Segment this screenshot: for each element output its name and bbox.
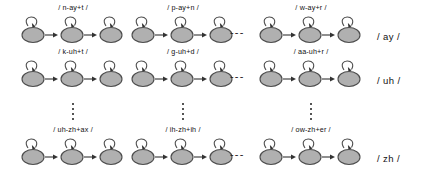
hmm-model-r3c2: / ih-zh+ih / — [124, 125, 242, 171]
row-ellipsis-col2 — [182, 103, 185, 123]
hmm-model-r2c2: / g-uh+d / — [124, 47, 242, 93]
column-ellipsis-row3: --- — [230, 149, 245, 159]
phoneme-label-ay: / ay / — [377, 31, 400, 42]
hmm-model-r1c2: / p-ay+n / — [124, 3, 242, 49]
column-ellipsis-row2: --- — [230, 71, 245, 81]
triphone-label-r2c1: / k-uh+t / — [14, 47, 132, 56]
triphone-label-r1c1: / n-ay+t / — [14, 3, 132, 12]
hmm-state-chain-r2c1 — [14, 56, 132, 93]
triphone-label-r1c3: / w-ay+r / — [252, 3, 370, 12]
hmm-model-r2c1: / k-uh+t / — [14, 47, 132, 93]
hmm-model-r3c1: / uh-zh+ax / — [14, 125, 132, 171]
hmm-model-r1c3: / w-ay+r / — [252, 3, 370, 49]
hmm-triphone-diagram: / n-ay+t / — [0, 0, 426, 177]
hmm-model-r3c3: / ow-zh+er / — [252, 125, 370, 171]
hmm-state-chain-r3c3 — [252, 134, 370, 171]
triphone-label-r3c3: / ow-zh+er / — [252, 125, 370, 134]
triphone-label-r1c2: / p-ay+n / — [124, 3, 242, 12]
phoneme-label-zh: / zh / — [377, 153, 400, 164]
phoneme-label-uh: / uh / — [377, 75, 401, 86]
hmm-state-chain-r3c1 — [14, 134, 132, 171]
hmm-state-chain-r1c1 — [14, 12, 132, 49]
hmm-state-chain-r1c3 — [252, 12, 370, 49]
triphone-label-r3c2: / ih-zh+ih / — [124, 125, 242, 134]
hmm-model-r2c3: / aa-uh+r / — [252, 47, 370, 93]
row-ellipsis-col1 — [72, 103, 75, 123]
hmm-state-chain-r1c2 — [124, 12, 242, 49]
triphone-label-r2c2: / g-uh+d / — [124, 47, 242, 56]
triphone-label-r2c3: / aa-uh+r / — [252, 47, 370, 56]
hmm-model-r1c1: / n-ay+t / — [14, 3, 132, 49]
row-ellipsis-col3 — [310, 103, 313, 123]
triphone-label-r3c1: / uh-zh+ax / — [14, 125, 132, 134]
hmm-state-chain-r2c3 — [252, 56, 370, 93]
column-ellipsis-row1: --- — [230, 27, 245, 37]
hmm-state-chain-r2c2 — [124, 56, 242, 93]
hmm-state-chain-r3c2 — [124, 134, 242, 171]
